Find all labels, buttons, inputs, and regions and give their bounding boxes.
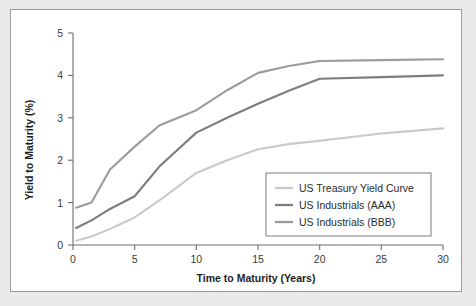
- x-tick-label: 5: [132, 253, 138, 265]
- x-tick-label: 15: [252, 253, 264, 265]
- chart-legend: US Treasury Yield CurveUS Industrials (A…: [266, 173, 431, 236]
- x-tick-label: 20: [314, 253, 326, 265]
- y-tick-label: 2: [57, 154, 63, 166]
- legend-label: US Industrials (AAA): [299, 199, 395, 211]
- legend-label: US Industrials (BBB): [299, 216, 395, 228]
- y-axis-title: Yield to Maturity (%): [23, 100, 35, 201]
- y-tick-label: 3: [57, 112, 63, 124]
- x-axis-title: Time to Maturity (Years): [197, 272, 316, 284]
- x-tick-label: 0: [70, 253, 76, 265]
- chart-page: Yield to Maturity (%) Time to Maturity (…: [0, 0, 476, 306]
- legend-label: US Treasury Yield Curve: [299, 182, 414, 194]
- chart-card: Yield to Maturity (%) Time to Maturity (…: [10, 9, 462, 292]
- y-tick-label: 0: [57, 239, 63, 251]
- y-tick-label: 1: [57, 197, 63, 209]
- x-tick-label: 30: [437, 253, 449, 265]
- x-tick-label: 10: [190, 253, 202, 265]
- y-tick-label: 5: [57, 27, 63, 39]
- x-tick-label: 25: [375, 253, 387, 265]
- x-axis-ticks: 051015202530: [70, 245, 449, 265]
- yield-curve-chart: Yield to Maturity (%) Time to Maturity (…: [11, 10, 463, 293]
- y-tick-label: 4: [57, 69, 63, 81]
- y-axis-ticks: 012345: [57, 27, 73, 251]
